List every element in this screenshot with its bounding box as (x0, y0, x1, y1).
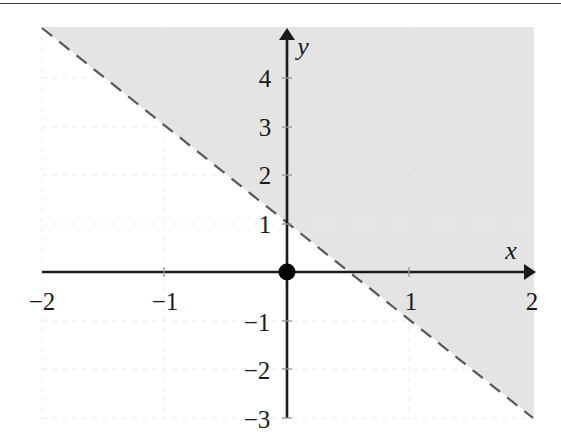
y-tick-label-2: 2 (259, 163, 272, 188)
x-tick-label-minus2: −2 (29, 289, 56, 314)
y-tick-label-1: 1 (259, 212, 272, 237)
x-tick-label-2: 2 (526, 289, 539, 314)
x-tick-label-1: 1 (405, 289, 418, 314)
y-tick-label-4: 4 (259, 66, 272, 91)
y-axis-label: y (297, 34, 309, 60)
y-tick-label-minus3: −3 (244, 407, 271, 432)
x-tick-label-minus1: −1 (152, 289, 179, 314)
y-tick-label-minus2: −2 (244, 358, 271, 383)
coordinate-plane (0, 0, 561, 446)
origin-point-marker (279, 264, 296, 281)
graph-figure: 4 3 2 1 −1 −2 −3 −2 −1 1 2 x y (0, 0, 561, 446)
x-axis-label: x (505, 238, 517, 264)
y-tick-label-3: 3 (259, 115, 272, 140)
y-tick-label-minus1: −1 (244, 310, 271, 335)
